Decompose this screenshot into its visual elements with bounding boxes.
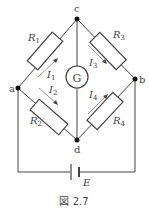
node-d bbox=[75, 138, 80, 143]
resistor-r3-label: R3 bbox=[112, 29, 125, 42]
resistor-r1-label: R1 bbox=[27, 32, 40, 45]
figure-caption: 図 2.7 bbox=[59, 196, 88, 207]
current-i2-label: I2 bbox=[48, 84, 57, 97]
node-d-label: d bbox=[74, 144, 81, 155]
current-i1-label: I1 bbox=[46, 69, 55, 82]
node-a-label: a bbox=[9, 83, 15, 94]
node-a bbox=[16, 86, 21, 91]
battery-label: E bbox=[82, 177, 91, 188]
node-c bbox=[75, 17, 80, 22]
node-c-label: c bbox=[74, 3, 80, 14]
node-b bbox=[133, 77, 138, 82]
current-i4-label: I4 bbox=[88, 89, 98, 102]
galvanometer-label: G bbox=[73, 72, 82, 85]
current-i3-label: I3 bbox=[88, 57, 97, 70]
resistor-r4-label: R4 bbox=[112, 115, 126, 128]
node-b-label: b bbox=[139, 74, 145, 85]
wheatstone-bridge-diagram: G a c b d R1 R3 R2 R4 I1 I2 I3 I4 E 図 2.… bbox=[0, 0, 149, 210]
